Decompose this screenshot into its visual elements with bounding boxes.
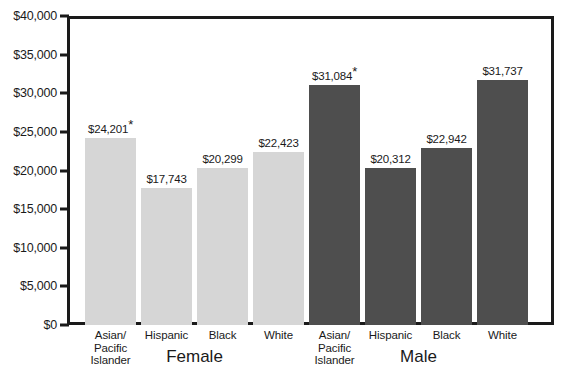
bar[interactable]: $17,743 [141, 188, 192, 325]
bar-rect [309, 85, 360, 325]
bar-rect [141, 188, 192, 325]
category-label: Black [416, 329, 477, 342]
bar-value-label: $31,737 [482, 65, 522, 77]
bar-rect [365, 168, 416, 325]
bar[interactable]: $31,084* [309, 85, 360, 325]
category-label-line: White [248, 329, 309, 342]
bar-value-label: $24,201* [88, 123, 133, 135]
bar-value-label: $22,942 [426, 133, 466, 145]
category-label-line: Black [416, 329, 477, 342]
bar-value-text: $22,942 [426, 133, 466, 145]
bar[interactable]: $24,201* [85, 138, 136, 325]
category-label: Hispanic [136, 329, 197, 342]
category-label-line: Black [192, 329, 253, 342]
category-label-line: Hispanic [360, 329, 421, 342]
bar[interactable]: $31,737 [477, 80, 528, 325]
category-label: White [248, 329, 309, 342]
bar-value-label: $17,743 [146, 173, 186, 185]
category-label-line: White [472, 329, 533, 342]
bar-value-label: $20,299 [202, 153, 242, 165]
bar-value-text: $20,299 [202, 153, 242, 165]
bar-value-text: $31,737 [482, 65, 522, 77]
bar[interactable]: $20,312 [365, 168, 416, 325]
bar-rect [421, 148, 472, 325]
bar-rect [477, 80, 528, 325]
category-label: Black [192, 329, 253, 342]
bar-value-label: $22,423 [258, 137, 298, 149]
bar-value-text: $17,743 [146, 173, 186, 185]
bar-rect [85, 138, 136, 325]
bar-value-text: $24,201 [88, 123, 128, 135]
category-label-line: Asian/ [304, 329, 365, 342]
bar[interactable]: $22,423 [253, 152, 304, 325]
category-label: Hispanic [360, 329, 421, 342]
bar[interactable]: $20,299 [197, 168, 248, 325]
footnote-asterisk: * [352, 64, 357, 79]
bar-value-text: $22,423 [258, 137, 298, 149]
category-label-line: Asian/ [80, 329, 141, 342]
bar-value-text: $31,084 [312, 70, 352, 82]
bar-rect [197, 168, 248, 325]
group-label-male: Male [309, 347, 528, 367]
category-label: White [472, 329, 533, 342]
bar-chart: $40,000$35,000$30,000$25,000$20,000$15,0… [0, 0, 570, 375]
bar-rect [253, 152, 304, 325]
bar-value-label: $20,312 [370, 153, 410, 165]
group-label-female: Female [85, 347, 304, 367]
footnote-asterisk: * [128, 117, 133, 132]
category-label-line: Hispanic [136, 329, 197, 342]
bar[interactable]: $22,942 [421, 148, 472, 325]
bar-value-text: $20,312 [370, 153, 410, 165]
bar-value-label: $31,084* [312, 70, 357, 82]
bars-layer: $24,201*$17,743$20,299$22,423$31,084*$20… [0, 0, 570, 375]
